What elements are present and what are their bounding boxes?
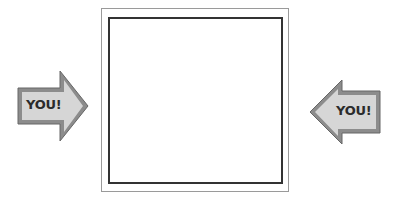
left-you-arrow: YOU!: [16, 68, 90, 144]
arrow-label: YOU!: [26, 97, 61, 112]
arrow-label: YOU!: [336, 103, 371, 118]
right-you-arrow: YOU!: [308, 79, 382, 146]
blank-content-area: [108, 17, 283, 184]
